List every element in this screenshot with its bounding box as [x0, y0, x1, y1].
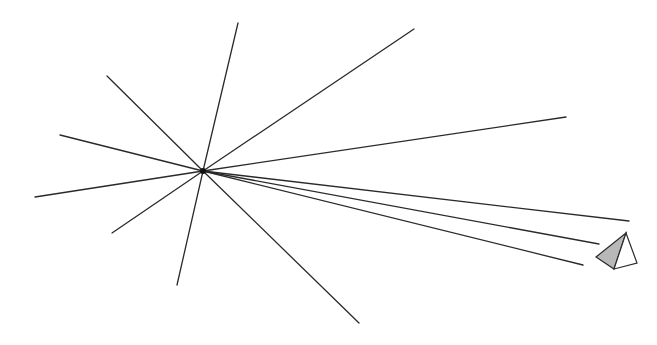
- ray-lower-left: [112, 171, 203, 233]
- rays-group: [35, 23, 629, 323]
- center-point: [200, 168, 206, 174]
- ray-lower-right: [203, 171, 359, 323]
- ray-to-pyramid-1: [203, 171, 629, 221]
- ray-upper-right: [203, 29, 414, 171]
- ray-diagram: [0, 0, 657, 345]
- ray-to-pyramid-2: [203, 171, 599, 244]
- ray-right: [203, 117, 566, 171]
- ray-down: [177, 171, 203, 285]
- ray-up: [203, 23, 238, 171]
- ray-to-pyramid-3: [203, 171, 583, 265]
- pyramid-icon: [596, 233, 637, 269]
- ray-far-left-down: [35, 171, 203, 197]
- ray-upper-left: [107, 76, 203, 171]
- ray-left: [60, 135, 203, 171]
